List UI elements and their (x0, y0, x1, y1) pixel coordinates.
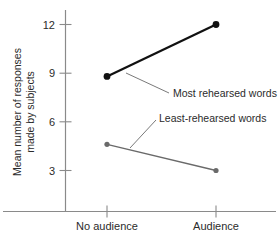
data-point-least-rehearsed-audience (213, 168, 218, 173)
y-tick-label-12: 12 (43, 19, 55, 31)
annotation-leader-line-most-rehearsed (126, 73, 169, 93)
data-point-least-rehearsed-no-audience (104, 142, 109, 147)
series-line-most-rehearsed (107, 25, 216, 77)
data-point-most-rehearsed-no-audience (104, 73, 111, 80)
y-axis-title-line-1: Mean number of responses (11, 48, 23, 176)
annotation-label-least-rehearsed: Least-rehearsed words (159, 112, 266, 124)
y-tick-label-3: 3 (49, 165, 55, 177)
annotation-label-most-rehearsed: Most rehearsed words (173, 87, 277, 99)
y-axis-title-line-2: made by subjects (24, 71, 36, 153)
annotation-leader-line-least-rehearsed (130, 120, 156, 148)
y-tick-label-9: 9 (49, 67, 55, 79)
y-tick-label-6: 6 (49, 116, 55, 128)
line-chart-canvas: 12 9 6 3 Mean number of responses made b… (0, 0, 278, 236)
series-line-least-rehearsed (107, 144, 216, 170)
x-category-label-audience: Audience (193, 220, 239, 232)
chart-figure: 12 9 6 3 Mean number of responses made b… (0, 0, 278, 236)
x-category-label-no-audience: No audience (76, 220, 138, 232)
data-point-most-rehearsed-audience (213, 21, 220, 28)
